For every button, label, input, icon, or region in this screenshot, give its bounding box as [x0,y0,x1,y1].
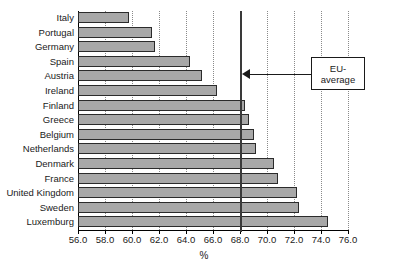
bar [78,216,328,227]
bar [78,114,249,125]
eu-average-reference-line [240,11,242,232]
y-axis-label: Belgium [0,129,74,140]
annotation-leader-line [245,74,311,75]
y-axis-label: Spain [0,56,74,67]
bar [78,56,190,67]
gridline [321,11,322,230]
annotation-arrow-icon [242,69,250,79]
bar [78,173,278,184]
bar-row [78,187,297,198]
bar [78,100,245,111]
bar [78,129,254,140]
bar-row [78,70,202,81]
y-axis-label: Netherlands [0,143,74,154]
bar [78,158,274,169]
bar-row [78,158,274,169]
bar-row [78,143,256,154]
gridline [348,11,349,230]
bar-row [78,27,152,38]
y-axis-label: Denmark [0,158,74,169]
y-axis-label: Ireland [0,85,74,96]
bar-row [78,56,190,67]
y-axis-label: Germany [0,41,74,52]
bar [78,202,299,213]
bar-row [78,114,249,125]
y-axis-label: Sweden [0,202,74,213]
y-axis-label: Italy [0,12,74,23]
y-axis-label: France [0,173,74,184]
bar [78,27,152,38]
bar-row [78,173,278,184]
bar [78,187,297,198]
y-axis-label: Luxemburg [0,216,74,227]
bar-row [78,202,299,213]
y-axis-label: Greece [0,114,74,125]
bar-row [78,85,217,96]
x-axis-title: % [0,250,408,261]
annotation-label-line2: average [312,74,364,85]
x-tick-label: 76.0 [331,234,365,245]
bar-row [78,216,328,227]
eu-average-annotation-box: EU- average [311,57,365,90]
bar-chart: ItalyPortugalGermanySpainAustriaIrelandF… [0,0,408,271]
bar [78,85,217,96]
bar-row [78,129,254,140]
bar-row [78,41,155,52]
y-axis-label: United Kingdom [0,187,74,198]
annotation-label-line1: EU- [312,63,364,74]
y-axis-label: Austria [0,70,74,81]
bar-row [78,12,129,23]
y-axis-label: Finland [0,100,74,111]
bar-row [78,100,245,111]
bar [78,143,256,154]
bar [78,12,129,23]
bar [78,41,155,52]
bar [78,70,202,81]
y-axis-label: Portugal [0,27,74,38]
